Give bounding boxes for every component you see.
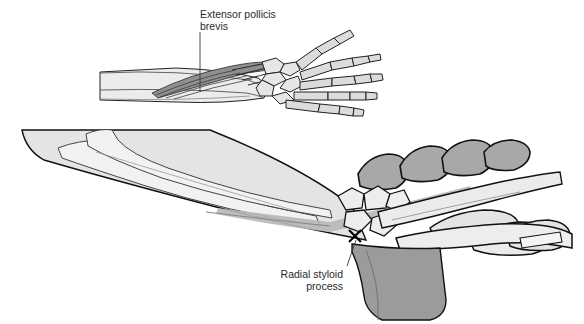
anatomy-illustration: Extensor pollicis brevis: [0, 0, 584, 324]
upper-label-line2: brevis: [200, 20, 228, 32]
lower-label-line1: Radial styloid: [281, 268, 344, 280]
upper-label-line1: Extensor pollicis: [200, 8, 276, 20]
lower-label-line2: process: [306, 280, 343, 292]
